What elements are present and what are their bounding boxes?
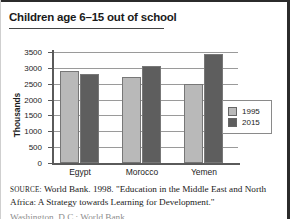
legend-item-2015[interactable]: 2015 bbox=[228, 118, 267, 127]
bar-group: Yemen bbox=[184, 52, 224, 163]
legend-item-1995[interactable]: 1995 bbox=[228, 107, 267, 116]
bar[interactable] bbox=[142, 66, 161, 163]
y-axis-tick-label: 2000 bbox=[24, 95, 42, 104]
x-axis-tick-label: Morocco bbox=[112, 167, 172, 177]
bar[interactable] bbox=[184, 84, 203, 163]
chart-figure: Thousands 0500100015002000250030003500 E… bbox=[0, 32, 290, 180]
y-axis-tick-label: 3500 bbox=[24, 48, 42, 57]
source-kicker: Source: bbox=[10, 186, 42, 194]
chart-legend: 1995 2015 bbox=[222, 100, 272, 134]
bar[interactable] bbox=[80, 74, 99, 163]
title-underline bbox=[9, 28, 164, 29]
y-axis-label: Thousands bbox=[12, 80, 22, 150]
x-axis-tick-label: Yemen bbox=[174, 167, 234, 177]
y-axis-tick-label: 1500 bbox=[24, 111, 42, 120]
source-line-3-cropped: Washington, D.C.: World Bank. bbox=[10, 212, 275, 219]
y-axis-tick-label: 2500 bbox=[24, 79, 42, 88]
chart-title: Children age 6–15 out of school bbox=[9, 11, 177, 23]
x-axis-line bbox=[52, 163, 240, 165]
legend-swatch-2015 bbox=[228, 118, 237, 127]
bar[interactable] bbox=[60, 71, 79, 163]
source-line-1: World Bank. 1998. "Education in the Midd… bbox=[44, 184, 242, 194]
bar-group: Morocco bbox=[122, 52, 162, 163]
x-axis-tick-label: Egypt bbox=[50, 167, 110, 177]
plot-bars: EgyptMoroccoYemen bbox=[52, 52, 238, 163]
legend-label-2015: 2015 bbox=[242, 118, 260, 127]
bar[interactable] bbox=[204, 54, 223, 163]
page-border-top bbox=[0, 0, 290, 2]
y-axis-tick-label: 500 bbox=[29, 143, 42, 152]
figure-page: Children age 6–15 out of school Thousand… bbox=[0, 0, 290, 219]
legend-label-1995: 1995 bbox=[242, 107, 260, 116]
source-note: Source: World Bank. 1998. "Education in … bbox=[10, 184, 275, 208]
y-axis-tick-label: 1000 bbox=[24, 127, 42, 136]
bar-group: Egypt bbox=[60, 52, 100, 163]
y-axis-tick-label: 0 bbox=[38, 159, 42, 168]
bar[interactable] bbox=[122, 77, 141, 163]
y-axis-tick-label: 3000 bbox=[24, 63, 42, 72]
legend-swatch-1995 bbox=[228, 107, 237, 116]
